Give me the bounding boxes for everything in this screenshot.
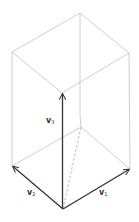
label-v3-subscript: 3 xyxy=(51,119,54,125)
vector-v1-arrow xyxy=(63,170,129,210)
edge-top-front-right xyxy=(62,53,129,93)
vector-v2-arrow xyxy=(13,167,63,210)
edge-top-back-right xyxy=(80,13,129,53)
edge-top-back-left xyxy=(12,13,80,52)
edge-vertical-right xyxy=(129,53,130,169)
label-v3: v3 xyxy=(46,117,54,125)
label-v1: v1 xyxy=(99,189,107,197)
edge-top-front-left xyxy=(12,52,62,93)
edge-bottom-back-right xyxy=(81,127,130,169)
edge-bottom-back-left xyxy=(12,127,81,166)
label-v2-subscript: 2 xyxy=(32,191,35,197)
edge-vertical-back xyxy=(80,13,81,127)
label-v2: v2 xyxy=(27,189,35,197)
label-v1-subscript: 1 xyxy=(104,191,107,197)
hidden-edge-origin-to-back xyxy=(63,127,81,209)
parallelepiped-diagram xyxy=(0,0,139,222)
